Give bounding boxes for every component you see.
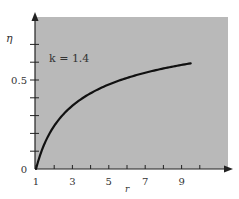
x-tick-label: 9: [178, 176, 184, 187]
x-tick-label: 3: [69, 176, 75, 187]
efficiency-chart: 13579 00.5 η r k = 1.4: [0, 0, 239, 199]
plot-background: [35, 17, 228, 169]
x-tick-label: 7: [142, 176, 148, 187]
x-tick-labels: 13579: [33, 176, 185, 187]
x-tick-label: 5: [106, 176, 112, 187]
k-annotation: k = 1.4: [49, 52, 89, 65]
y-axis-arrow-icon: [32, 12, 39, 21]
x-tick-label: 1: [33, 176, 39, 187]
y-tick-label: 0.5: [11, 75, 27, 86]
x-axis-label: r: [125, 184, 130, 194]
y-tick-label: 0: [21, 164, 27, 175]
x-axis-arrow-icon: [224, 166, 233, 173]
y-axis-label: η: [6, 32, 13, 45]
y-tick-labels: 00.5: [11, 75, 27, 175]
